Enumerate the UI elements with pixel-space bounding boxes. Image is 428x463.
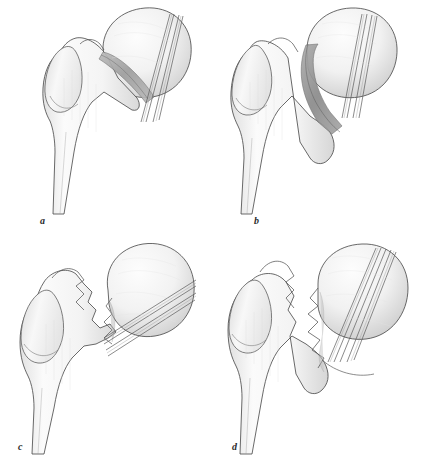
femur-illustration-c [0,232,214,463]
femur-illustration-b [214,0,428,231]
figure-sheet: a [0,0,428,463]
panel-label-a: a [40,216,45,226]
panel-c: c [0,232,214,463]
femur-illustration-a [0,0,214,231]
panel-b: b [214,0,428,231]
femur-illustration-d [214,232,428,463]
panel-label-b: b [254,216,259,226]
panel-label-d: d [232,442,237,452]
panel-label-c: c [18,442,22,452]
panel-a: a [0,0,214,231]
panel-d: d [214,232,428,463]
